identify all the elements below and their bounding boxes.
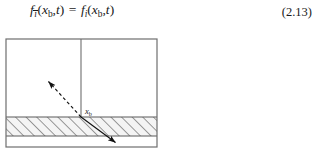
boundary-node-figure: xb [0,28,322,160]
boundary-node-label-subscript: b [89,110,92,117]
equation-expression: fi(xb,t)=fi(xb,t) [30,3,114,19]
equation-equals-sign: = [67,2,78,17]
equation-number: (2.13) [282,6,312,19]
hatched-wall-band [6,117,157,136]
equation-row: fi(xb,t)=fi(xb,t) (2.13) [0,0,322,30]
equation-lhs-subscript-ibar: i [34,10,38,19]
equation-lhs-close-paren: ) [60,2,65,17]
equation-rhs-close-paren: ) [110,2,115,17]
